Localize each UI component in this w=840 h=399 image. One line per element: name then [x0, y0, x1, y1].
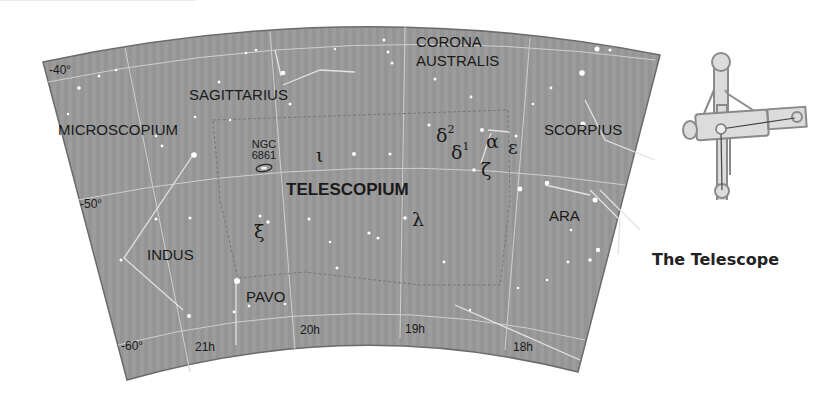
constellation-label-sagittarius: SAGITTARIUS [189, 87, 288, 102]
constellation-label-microscopium: MICROSCOPIUM [58, 122, 178, 137]
delta1-symbol: δ [451, 141, 462, 163]
star-lambda: λ [412, 210, 424, 229]
constellation-label-ara: ARA [549, 208, 580, 223]
constellation-label-australis: AUSTRALIS [416, 53, 499, 68]
ra-label-18h: 18h [513, 341, 533, 353]
constellation-label-scorpius: SCORPIUS [544, 122, 622, 137]
ngc-line2: 6861 [244, 150, 284, 161]
ra-label-20h: 20h [300, 324, 320, 336]
figure-caption: The Telescope [652, 250, 779, 269]
star-alpha: α [486, 132, 499, 151]
star-xi: ξ [254, 222, 264, 241]
delta1-sup: 1 [462, 140, 469, 153]
constellation-title: TELESCOPIUM [286, 181, 409, 198]
star-epsilon: ε [508, 138, 518, 157]
sky-region [43, 27, 660, 380]
star-iota: ι [316, 146, 323, 165]
star-zeta: ζ [481, 160, 491, 179]
ngc-6861-label: NGC 6861 [244, 139, 284, 161]
declination-label-60: -60° [121, 340, 143, 352]
declination-label-50: -50° [80, 198, 102, 210]
star-delta1: δ1 [451, 141, 469, 162]
declination-label-40: -40° [49, 64, 71, 76]
ra-label-21h: 21h [195, 341, 215, 353]
delta2-sup: 2 [447, 123, 454, 136]
ra-label-19h: 19h [405, 323, 425, 335]
constellation-label-pavo: PAVO [246, 289, 285, 304]
telescope-icon [670, 50, 810, 200]
constellation-label-corona: CORONA [416, 34, 482, 49]
constellation-label-indus: INDUS [147, 247, 194, 262]
delta2-symbol: δ [436, 124, 447, 146]
